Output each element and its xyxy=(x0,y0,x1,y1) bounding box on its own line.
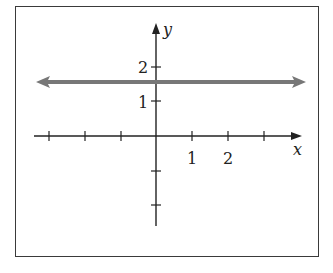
x-axis-label: x xyxy=(293,140,302,159)
y-axis xyxy=(151,23,161,226)
x-axis xyxy=(34,131,302,141)
x-tick-label-1: 1 xyxy=(187,149,197,168)
x-tick-label-2: 2 xyxy=(223,149,233,168)
horizontal-line-series xyxy=(36,76,306,88)
y-tick-label-1: 1 xyxy=(138,93,148,112)
y-axis-label: y xyxy=(162,20,173,39)
y-tick-label-2: 2 xyxy=(138,58,148,77)
y-axis-arrow-icon xyxy=(152,23,160,34)
coordinate-plane: y x 2 1 1 2 xyxy=(0,0,333,273)
x-axis-arrow-icon xyxy=(291,132,302,140)
